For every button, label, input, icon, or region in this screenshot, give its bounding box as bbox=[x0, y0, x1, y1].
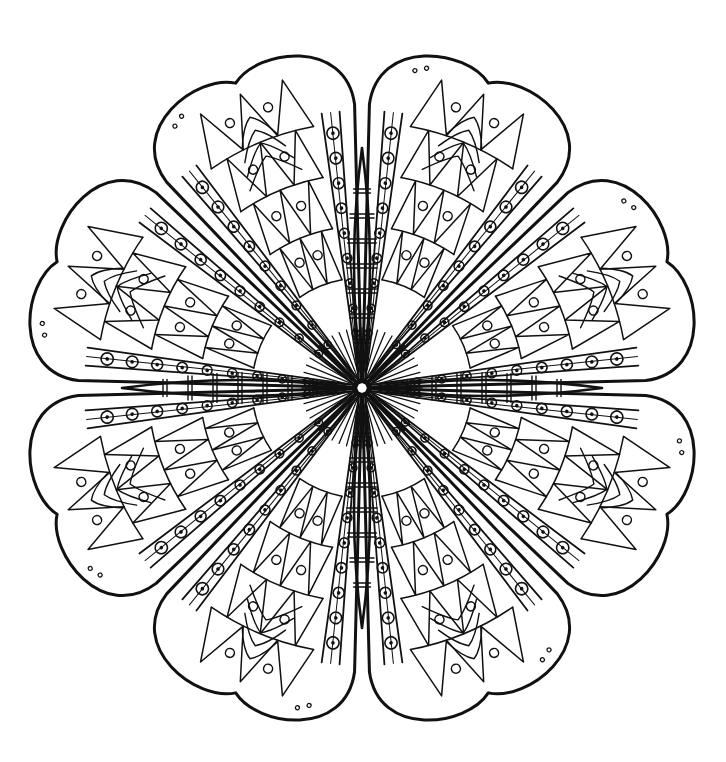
mandala-artwork bbox=[0, 0, 726, 762]
